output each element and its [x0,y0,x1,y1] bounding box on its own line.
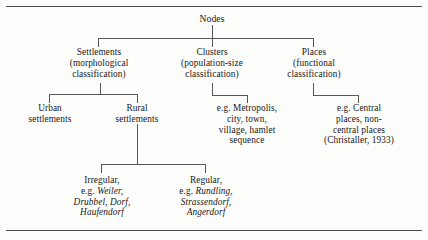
connector-settlements-bracket [49,94,138,95]
settlement-type-urban-label: Urban settlements [14,103,86,125]
category-places-label: Places (functional classification) [266,47,362,79]
connector-places-elbow [313,95,359,96]
connector-clusters-stem [212,83,213,95]
connector-drop-places [313,38,314,47]
nodes-classification-figure: Nodes Settlements (morphological classif… [0,0,428,240]
place-examples-label: e.g. Central places, non- central places… [305,103,413,146]
regular-example-2: Strassendorf, [181,197,232,207]
connector-drop-urban [49,94,50,103]
regular-lead: Regular, [190,175,222,185]
connector-settlements-stem [100,83,101,94]
cluster-examples-label: e.g. Metropolis, city, town, village, ha… [190,103,304,146]
connector-places-stem [313,83,314,95]
irregular-example-2: Drubbel, Dorf, [74,197,131,207]
connector-drop-rural [137,94,138,103]
connector-rural-bracket [101,164,206,165]
irregular-eg-prefix: e.g. [81,186,97,196]
connector-clusters-drop [247,95,248,103]
connector-drop-settlements [98,38,99,47]
connector-clusters-elbow [212,95,248,96]
regular-example-1: Rundling, [195,186,232,196]
root-node-label: Nodes [177,13,247,24]
irregular-example-1: Weiler, [97,186,123,196]
category-settlements-label: Settlements (morphological classificatio… [39,47,159,79]
regular-example-3: Angerdorf [187,207,226,217]
connector-places-drop [358,95,359,103]
connector-drop-regular [205,164,206,173]
rural-form-regular-label: Regular,e.g. Rundling,Strassendorf,Anger… [163,175,249,218]
connector-drop-clusters [212,38,213,47]
settlement-type-rural-label: Rural settlements [101,103,173,125]
connector-root-stem [212,25,213,38]
figure-top-rule [6,6,422,7]
connector-rural-stem [137,124,138,164]
figure-bottom-rule [6,230,422,231]
connector-drop-irregular [101,164,102,173]
irregular-example-3: Haufendorf [80,207,124,217]
category-clusters-label: Clusters (population-size classification… [152,47,272,79]
regular-eg-prefix: e.g. [179,186,195,196]
irregular-lead: Irregular, [84,175,119,185]
rural-form-irregular-label: Irregular,e.g. Weiler,Drubbel, Dorf,Hauf… [61,175,143,218]
connector-level1-bracket [98,38,314,39]
